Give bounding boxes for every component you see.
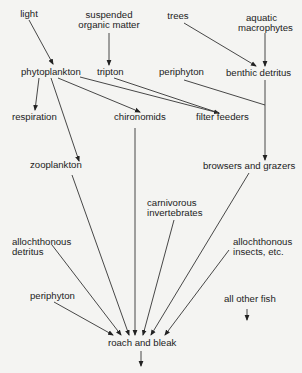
edge-carnivorous-roach bbox=[143, 220, 174, 335]
node-respiration: respiration bbox=[12, 112, 57, 122]
node-periphyton-bottom: periphyton bbox=[30, 291, 75, 301]
node-benthic-detritus: benthic detritus bbox=[226, 68, 291, 78]
edge-periphyton-roach bbox=[54, 302, 113, 335]
node-label-line: detritus bbox=[12, 247, 71, 257]
edge-periphyton-browsers bbox=[184, 80, 265, 105]
node-roach-and-bleak: roach and bleak bbox=[108, 338, 176, 348]
node-label-line: insects, etc. bbox=[233, 247, 292, 257]
edge-phyto-filter bbox=[80, 77, 219, 113]
node-label-line: organic matter bbox=[78, 20, 139, 30]
edge-alloinsects-roach bbox=[165, 250, 229, 335]
node-phytoplankton: phytoplankton bbox=[21, 67, 81, 77]
node-suspended-organic-matter: suspended organic matter bbox=[78, 10, 139, 30]
node-all-other-fish: all other fish bbox=[224, 294, 276, 304]
node-allochthonous-detritus: allochthonous detritus bbox=[12, 237, 71, 257]
node-light: light bbox=[20, 9, 38, 19]
food-web-arrows bbox=[0, 0, 302, 373]
node-label-line: macrophytes bbox=[238, 23, 293, 33]
node-periphyton-top: periphyton bbox=[159, 67, 204, 77]
node-aquatic-macrophytes: aquatic macrophytes bbox=[238, 13, 293, 33]
node-browsers-grazers: browsers and grazers bbox=[203, 161, 295, 171]
edge-zoo-roach bbox=[72, 175, 129, 335]
node-carnivorous-invertebrates: carnivorous invertebrates bbox=[147, 198, 202, 218]
edge-phyto-respiration bbox=[35, 78, 39, 110]
node-trees: trees bbox=[167, 11, 188, 21]
node-allochthonous-insects: allochthonous insects, etc. bbox=[233, 237, 292, 257]
edge-light-phytoplankton bbox=[29, 20, 53, 64]
edge-phyto-chironomids bbox=[58, 78, 140, 112]
node-filter-feeders: filter feeders bbox=[196, 112, 249, 122]
node-tripton: tripton bbox=[97, 67, 124, 77]
node-label-line: invertebrates bbox=[147, 208, 202, 218]
node-zooplankton: zooplankton bbox=[30, 160, 82, 170]
node-chironomids: chironomids bbox=[114, 112, 166, 122]
